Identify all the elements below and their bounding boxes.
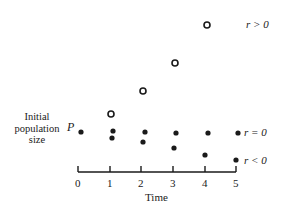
data-point [109, 135, 114, 140]
x-tick-label: 3 [170, 178, 176, 189]
data-point [173, 130, 178, 135]
x-axis [78, 166, 236, 172]
y-label-line: Initial [8, 111, 66, 123]
data-point [110, 128, 115, 133]
data-point [205, 130, 210, 135]
y-axis-label: Initial population size [8, 111, 66, 146]
data-point [140, 139, 145, 144]
data-point [172, 60, 178, 66]
y-label-line: size [8, 134, 66, 146]
initial-size-symbol: P [67, 122, 74, 133]
data-point [171, 145, 176, 150]
x-axis-label: Time [145, 192, 168, 203]
data-point [142, 129, 147, 134]
data-point [204, 22, 210, 28]
series-label-r-positive: r > 0 [246, 19, 269, 30]
x-tick-label: 2 [138, 178, 144, 189]
x-tick-label: 0 [75, 178, 81, 189]
data-point [233, 157, 238, 162]
series-r-positive [108, 22, 210, 117]
data-point [202, 152, 207, 157]
data-point [235, 130, 240, 135]
x-tick-label: 5 [233, 178, 239, 189]
x-tick-label: 1 [107, 178, 113, 189]
series-r-zero [78, 128, 240, 135]
series-label-r-zero: r = 0 [244, 127, 267, 138]
data-point [78, 129, 83, 134]
data-point [140, 88, 146, 94]
data-point [108, 111, 114, 117]
x-tick-label: 4 [202, 178, 208, 189]
y-label-line: population [8, 123, 66, 135]
series-label-r-negative: r < 0 [244, 155, 267, 166]
series-r-negative [109, 135, 238, 162]
